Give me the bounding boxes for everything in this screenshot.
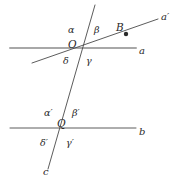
angle-label-delta-prime: δ′ [40,138,48,148]
line-label-c: c [43,167,49,177]
line-label-a-prime: a′ [161,12,169,22]
line-label-a: a [139,46,145,56]
geometry-canvas [0,0,184,181]
point-label-o: O [68,39,77,50]
angle-label-beta: β [94,25,100,35]
point-b-dot [124,32,128,36]
angle-label-delta: δ [63,56,69,66]
angle-label-beta-prime: β′ [72,108,80,118]
angle-label-alpha-prime: α′ [44,108,53,118]
point-label-b: B [116,22,124,33]
geometry-figure: O Q B a a′ b c α β γ δ α′ β′ γ′ δ′ [0,0,184,181]
point-label-q: Q [57,118,66,129]
angle-label-gamma: γ [86,56,92,66]
line-label-b: b [139,127,145,137]
angle-label-gamma-prime: γ′ [66,138,74,148]
angle-label-alpha: α [68,25,74,35]
